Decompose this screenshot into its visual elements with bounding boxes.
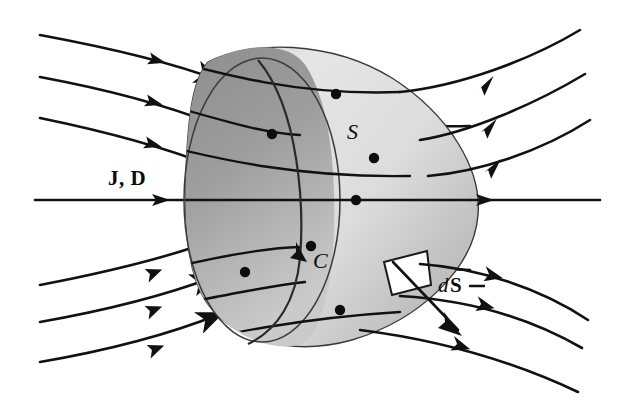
label-ds: d S [438,273,462,297]
termination-dot-1 [331,89,341,99]
label-field-jd: J, D [108,166,146,190]
arrowhead-in-6 [145,302,165,319]
arrowhead-in-5 [145,265,165,282]
termination-dot-2 [267,129,277,139]
termination-dot-4 [351,195,361,205]
arrowhead-in-7 [147,341,167,358]
ds-arrowhead [438,312,462,336]
label-contour-c: C [313,248,328,273]
diagram-svg: J, D S C d S [0,0,617,400]
termination-dot-6 [240,267,250,277]
figure-canvas: J, D S C d S [0,0,617,400]
termination-dot-3 [369,153,379,163]
label-surface-s: S [347,119,358,144]
termination-dot-7 [335,305,345,315]
flux-line-out-7 [360,330,578,392]
flux-arrowheads-left [143,52,170,358]
arrowhead-out-1 [475,76,498,97]
label-ds-s: S [450,273,462,297]
label-ds-d: d [438,273,449,297]
